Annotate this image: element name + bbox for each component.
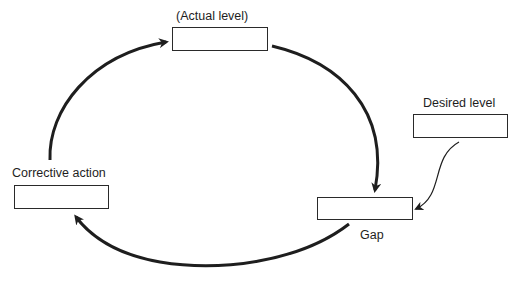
arrow-desired-to-gap xyxy=(416,142,459,209)
desired-level-box xyxy=(413,114,508,138)
desired-level-label: Desired level xyxy=(423,96,495,110)
arrow-corrective-to-actual xyxy=(50,42,166,160)
feedback-loop-diagram: (Actual level) Desired level Gap Correct… xyxy=(0,0,520,282)
corrective-action-box xyxy=(14,185,109,209)
arrow-actual-to-gap xyxy=(272,46,378,190)
actual-level-label: (Actual level) xyxy=(176,9,248,23)
actual-level-box xyxy=(172,27,268,51)
gap-box xyxy=(317,197,413,220)
gap-label: Gap xyxy=(360,228,384,242)
arrow-gap-to-corrective xyxy=(76,217,349,266)
corrective-action-label: Corrective action xyxy=(12,166,106,180)
